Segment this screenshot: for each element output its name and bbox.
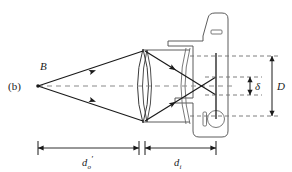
shutter-circle-icon (203, 111, 225, 128)
aperture-diameter-label: D (276, 80, 285, 92)
object-point-marker (36, 84, 40, 88)
optical-ray-diagram: δ D d o ′ d i (b) B (0, 0, 292, 172)
object-distance-prime: ′ (92, 154, 94, 164)
blur-circle-label: δ (255, 80, 261, 92)
object-distance-dimension (38, 141, 139, 155)
image-distance-label: d i (174, 157, 182, 171)
object-distance-subscript: o (88, 163, 92, 171)
camera-body-icon (168, 13, 228, 137)
ray-bundle (38, 51, 216, 121)
blur-circle-dimension (247, 77, 252, 95)
image-distance-dimension (145, 141, 216, 155)
object-distance-label: d o ′ (82, 154, 94, 172)
object-point-label: B (40, 60, 47, 72)
panel-label: (b) (8, 80, 21, 93)
image-distance-subscript: i (180, 163, 182, 171)
aperture-dimension (269, 56, 274, 116)
viewfinder-window-icon (211, 30, 222, 34)
